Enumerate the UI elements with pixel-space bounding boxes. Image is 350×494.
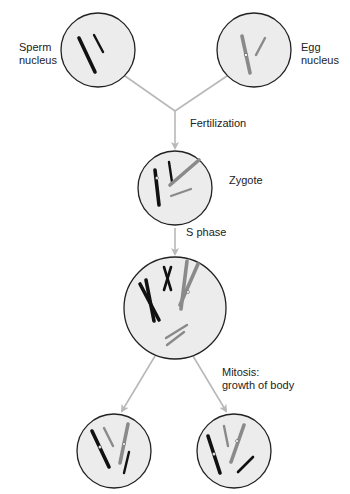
egg-nucleus xyxy=(217,13,291,87)
mitosis-label-line-2: growth of body xyxy=(222,379,294,392)
fertilization-text: Fertilization xyxy=(190,117,246,130)
diagram-canvas xyxy=(0,0,350,494)
daughter-cell-right xyxy=(197,414,271,488)
sperm-label-line-1: Sperm xyxy=(19,41,57,54)
zygote-cell xyxy=(138,151,212,225)
mitosis-label: Mitosis: growth of body xyxy=(222,366,294,392)
s-phase-cell xyxy=(124,257,226,359)
fertilization-label: Fertilization xyxy=(190,117,246,130)
sperm-nucleus-label: Sperm nucleus xyxy=(19,41,57,67)
sperm-nucleus xyxy=(61,13,135,87)
mitosis-arrow-left xyxy=(122,356,155,411)
mitosis-label-line-1: Mitosis: xyxy=(222,366,294,379)
egg-nucleus-label: Egg nucleus xyxy=(301,41,339,67)
s-phase-text: S phase xyxy=(186,226,226,239)
egg-label-line-2: nucleus xyxy=(301,54,339,67)
zygote-label: Zygote xyxy=(229,174,263,187)
zygote-text: Zygote xyxy=(229,174,263,187)
daughter-cell-left xyxy=(77,414,151,488)
sperm-label-line-2: nucleus xyxy=(19,54,57,67)
egg-to-junction-line xyxy=(175,76,227,111)
egg-label-line-1: Egg xyxy=(301,41,339,54)
s-phase-label: S phase xyxy=(186,226,226,239)
sperm-to-junction-line xyxy=(125,76,175,111)
